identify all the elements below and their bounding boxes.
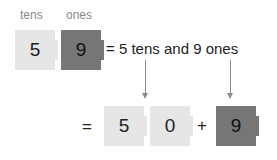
tens-value-block: 5 (104, 106, 144, 146)
equals-sign: = (82, 117, 92, 137)
zero-block: 0 (150, 106, 190, 146)
arrow-down-icon (142, 93, 148, 99)
tens-label: tens (20, 8, 43, 22)
arrow-down-icon (227, 93, 233, 99)
digit: 9 (231, 115, 242, 137)
tens-block: 5 (15, 30, 55, 70)
ones-digit: 9 (76, 39, 87, 61)
block-tab (144, 116, 147, 136)
arrow-line-ones (230, 60, 231, 94)
block-tab (190, 116, 193, 136)
arrow-line-tens (145, 60, 146, 94)
ones-value-block: 9 (216, 106, 256, 146)
digit: 5 (119, 115, 130, 137)
digit: 0 (165, 115, 176, 137)
tens-digit: 5 (30, 39, 41, 61)
equation-text: = 5 tens and 9 ones (106, 40, 238, 57)
block-tab (101, 40, 104, 60)
block-tab (55, 40, 58, 60)
ones-block: 9 (61, 30, 101, 70)
ones-label: ones (66, 8, 92, 22)
plus-sign: + (197, 116, 207, 136)
block-tab (256, 116, 259, 136)
